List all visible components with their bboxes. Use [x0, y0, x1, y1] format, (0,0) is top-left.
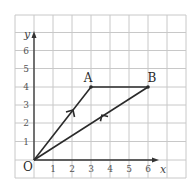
x-axis-arrow-icon — [152, 158, 159, 163]
point-b — [146, 85, 150, 89]
y-axis-label: y — [23, 28, 31, 41]
origin-label: O — [23, 160, 33, 174]
svg-text:1: 1 — [50, 164, 56, 174]
svg-text:5: 5 — [23, 64, 29, 74]
svg-text:6: 6 — [23, 46, 29, 56]
svg-text:4: 4 — [107, 164, 113, 174]
svg-text:6: 6 — [145, 164, 151, 174]
y-tick-labels: 1 2 3 4 5 6 — [23, 46, 29, 147]
x-tick-labels: 1 2 3 4 5 6 — [50, 164, 151, 174]
arrow-ob-icon — [100, 115, 108, 122]
svg-text:4: 4 — [23, 82, 29, 92]
point-a-label: A — [83, 71, 93, 85]
svg-text:2: 2 — [23, 118, 29, 128]
point-b-label: B — [148, 71, 157, 85]
svg-text:3: 3 — [88, 164, 94, 174]
svg-text:3: 3 — [23, 100, 29, 110]
svg-text:1: 1 — [23, 137, 29, 147]
x-axis-label: x — [160, 163, 167, 176]
svg-text:5: 5 — [126, 164, 132, 174]
svg-text:2: 2 — [69, 164, 75, 174]
coordinate-diagram: 1 2 3 4 5 6 1 2 3 4 5 6 y x O A B — [0, 0, 193, 186]
point-a — [89, 85, 93, 89]
grid — [15, 15, 186, 178]
